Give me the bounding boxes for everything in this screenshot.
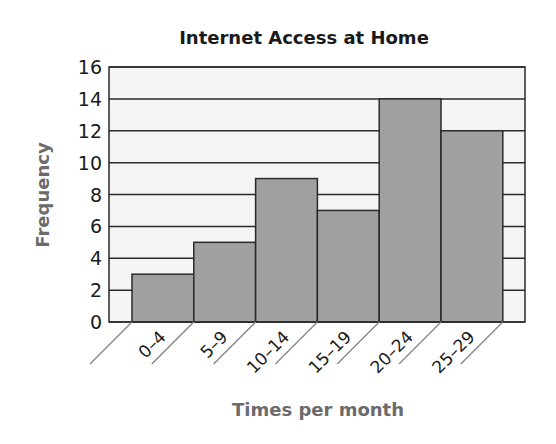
bar-15–19: [317, 210, 379, 322]
x-tick-label: 15–19: [304, 327, 355, 378]
bar-5–9: [194, 242, 256, 322]
bar-20–24: [379, 99, 441, 322]
bar-0–4: [132, 274, 194, 322]
x-tick-label: 25–29: [428, 327, 479, 378]
bar-25–29: [441, 131, 503, 322]
x-tick-label: 20–24: [366, 327, 417, 378]
x-tick-label: 10–14: [243, 327, 294, 378]
x-tick-label: 5–9: [196, 327, 231, 362]
y-tick-label: 10: [78, 152, 102, 174]
histogram-chart: 02468101214160–45–910–1415–1920–2425–29F…: [0, 0, 556, 444]
x-axis-title: Times per month: [232, 399, 404, 420]
y-tick-label: 8: [90, 184, 102, 206]
y-tick-label: 0: [90, 311, 102, 333]
y-tick-label: 12: [78, 120, 102, 142]
y-tick-label: 16: [78, 56, 102, 78]
y-axis-title: Frequency: [32, 142, 53, 248]
bar-10–14: [256, 179, 318, 322]
y-tick-label: 14: [78, 88, 102, 110]
y-tick-label: 2: [90, 279, 102, 301]
y-tick-label: 4: [90, 247, 102, 269]
x-tick-label: 0–4: [134, 327, 169, 362]
y-tick-label: 6: [90, 215, 102, 237]
